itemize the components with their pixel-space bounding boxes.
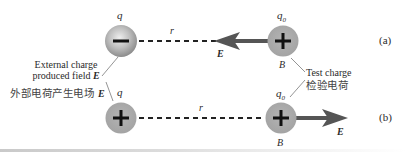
test-charge-label-a: q0 bbox=[277, 10, 286, 24]
point-label-a: B bbox=[279, 60, 285, 70]
leader-line-external-bottom bbox=[106, 82, 113, 101]
electric-field-diagram: q r E q0 B (a) q r E q0 B (b) External c… bbox=[0, 0, 406, 152]
test-charge-label-b: q0 bbox=[276, 88, 285, 102]
test-charge-subscript-b: 0 bbox=[282, 94, 286, 102]
leader-line-test-bottom bbox=[290, 80, 305, 97]
external-charge-chinese: 外部电荷产生电场 E bbox=[10, 84, 105, 100]
source-charge-label-b: q bbox=[117, 87, 123, 98]
panel-a bbox=[105, 25, 299, 57]
external-charge-line2-symbol: E bbox=[93, 70, 100, 81]
field-arrow-right-icon bbox=[296, 109, 348, 127]
separation-label-a: r bbox=[170, 26, 174, 36]
leader-line-test-top bbox=[291, 58, 305, 72]
external-charge-chinese-text: 外部电荷产生电场 bbox=[10, 87, 94, 99]
panel-b bbox=[106, 103, 349, 134]
test-charge-positive-icon-a bbox=[268, 26, 299, 57]
test-charge-subscript-a: 0 bbox=[283, 16, 287, 24]
external-charge-line1: External charge bbox=[26, 60, 106, 70]
negative-charge-icon bbox=[105, 25, 137, 57]
external-charge-annotation: External charge produced field E bbox=[26, 60, 106, 83]
field-label-a: E bbox=[217, 49, 224, 59]
separation-label-b: r bbox=[199, 103, 203, 113]
field-label-b: E bbox=[337, 127, 344, 137]
external-charge-line2-text: produced field bbox=[32, 70, 90, 81]
test-charge-chinese: 检验电荷 bbox=[306, 80, 351, 91]
bottom-divider bbox=[0, 149, 406, 152]
external-charge-line2: produced field E bbox=[26, 71, 106, 81]
panel-tag-b: (b) bbox=[379, 112, 392, 123]
positive-charge-icon bbox=[106, 103, 137, 134]
test-charge-positive-icon-b bbox=[266, 103, 297, 134]
external-charge-chinese-symbol: E bbox=[98, 88, 105, 99]
source-charge-label-a: q bbox=[117, 10, 123, 21]
test-charge-annotation: Test charge 检验电荷 bbox=[306, 68, 351, 91]
test-charge-line1: Test charge bbox=[306, 68, 351, 78]
point-label-b: B bbox=[277, 138, 283, 148]
panel-tag-a: (a) bbox=[379, 35, 391, 46]
